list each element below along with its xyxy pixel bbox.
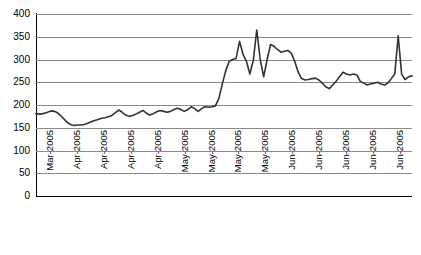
x-axis-tick-label: May-2005 [260,130,270,200]
x-axis-tick-label: Apr-2005 [99,130,109,200]
gridline-0 [36,196,412,197]
x-axis-tick-label: Jun-2005 [341,130,351,200]
x-axis-tick-label: May-2005 [233,130,243,200]
x-axis-tick-label: Jun-2005 [395,130,405,200]
data-series-line [36,14,412,196]
series-polyline [36,30,412,126]
y-axis-tick-label: 200 [0,100,30,110]
x-axis-tick-label: May-2005 [180,130,190,200]
y-axis-tick-label: 250 [0,77,30,87]
y-axis-tick-label: 400 [0,9,30,19]
y-axis-tick-label: 100 [0,146,30,156]
line-chart: 400350300250200150100500 Mar-2005Apr-200… [0,0,421,255]
plot-area [36,14,412,196]
x-axis-tick-label: Jun-2005 [314,130,324,200]
x-axis-tick-label: Apr-2005 [153,130,163,200]
x-axis-tick-label: May-2005 [207,130,217,200]
x-axis-tick-label: Jun-2005 [368,130,378,200]
y-axis-tick-label: 300 [0,55,30,65]
y-axis-tick-label: 0 [0,191,30,201]
y-axis-tick-label: 150 [0,123,30,133]
x-axis-tick-label: Apr-2005 [126,130,136,200]
x-axis-tick-label: Mar-2005 [45,130,55,200]
x-axis-tick-label: Jun-2005 [287,130,297,200]
x-axis-tick-label: Apr-2005 [72,130,82,200]
y-axis-tick-label: 50 [0,168,30,178]
y-axis-tick-label: 350 [0,32,30,42]
